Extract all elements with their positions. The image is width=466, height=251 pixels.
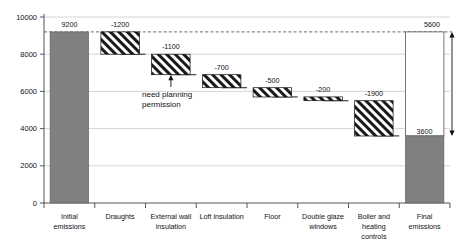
bar-external-wall-insulation[interactable]: -1100 — [152, 42, 191, 74]
bar-double-glaze-windows[interactable]: -200 — [304, 85, 343, 101]
cat-label-1-line-0: Draughts — [106, 212, 136, 221]
cat-label-6-line-0: Boiler and — [358, 212, 390, 221]
bar-value-label-0: 9200 — [61, 20, 77, 29]
ytick-label-4000: 4000 — [20, 124, 37, 133]
cat-label-0-line-1: emissions — [53, 222, 85, 231]
bar-final-emissions[interactable]: 3600 — [405, 32, 444, 203]
bar-value-label-7: 3600 — [417, 127, 433, 136]
planning-note-line-1: need planning — [142, 90, 192, 99]
bar-value-label-2: -1100 — [162, 42, 180, 51]
category-labels: Initial emissions Draughts External wall… — [53, 212, 441, 241]
bar-value-label-5: -200 — [316, 85, 330, 94]
bar-loft-insulation[interactable]: -700 — [202, 63, 241, 88]
cat-label-7-line-1: emissions — [409, 222, 441, 231]
chart-svg: 10000 8000 6000 4000 2000 0 — [0, 0, 466, 251]
bar-floor[interactable]: -500 — [253, 76, 292, 97]
bar-draughts[interactable]: -1200 — [101, 20, 139, 54]
ytick-label-0: 0 — [33, 199, 37, 208]
bar-initial-emissions[interactable]: 9200 — [50, 20, 89, 203]
cat-label-5-line-1: windows — [308, 222, 337, 231]
y-axis: 10000 8000 6000 4000 2000 0 — [16, 13, 44, 208]
total-reduction-label: 5600 — [424, 20, 440, 29]
planning-note-line-2: permission — [142, 100, 181, 109]
bar-value-label-6: -1900 — [365, 89, 383, 98]
waterfall-chart: 10000 8000 6000 4000 2000 0 — [0, 0, 466, 251]
cat-label-3-line-0: Loft insulation — [199, 212, 243, 221]
cat-label-7-line-0: Final — [417, 212, 433, 221]
bar-value-label-1: -1200 — [111, 20, 129, 29]
cat-label-0-line-0: Initial — [61, 212, 78, 221]
x-axis — [44, 203, 450, 208]
cat-label-2-line-1: insulation — [156, 222, 186, 231]
bar-value-label-4: -500 — [265, 76, 279, 85]
cat-label-4-line-0: Floor — [264, 212, 281, 221]
ytick-label-8000: 8000 — [20, 50, 37, 59]
cat-label-5-line-0: Double glaze — [302, 212, 344, 221]
ytick-label-6000: 6000 — [20, 87, 37, 96]
bar-boiler-and-heating-controls[interactable]: -1900 — [355, 89, 394, 136]
bar-value-label-3: -700 — [214, 63, 228, 72]
cat-label-6-line-1: heating — [362, 222, 386, 231]
ytick-label-2000: 2000 — [20, 161, 37, 170]
cat-label-6-line-2: controls — [361, 232, 387, 241]
ytick-label-10000: 10000 — [16, 13, 37, 22]
planning-permission-annotation: need planning permission — [142, 75, 192, 109]
cat-label-2-line-0: External wall — [151, 212, 192, 221]
